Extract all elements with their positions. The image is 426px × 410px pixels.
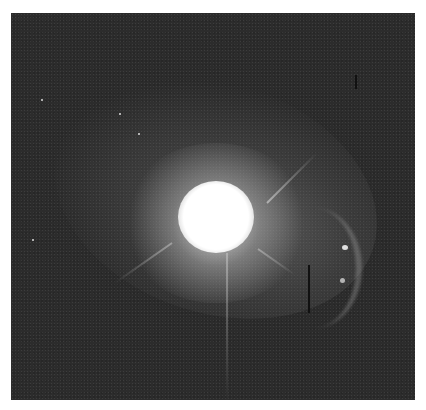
dark-streak <box>355 75 357 89</box>
bright-knot <box>342 245 348 250</box>
background-star <box>119 113 121 115</box>
bright-core <box>178 181 254 253</box>
background-star <box>41 99 43 101</box>
faint-arc <box>266 208 362 328</box>
diffraction-spike-south <box>226 253 228 400</box>
background-star <box>32 239 34 241</box>
astronomical-image <box>11 13 415 400</box>
faint-knot <box>340 278 345 283</box>
background-star <box>138 133 140 135</box>
dark-streak <box>308 265 310 313</box>
